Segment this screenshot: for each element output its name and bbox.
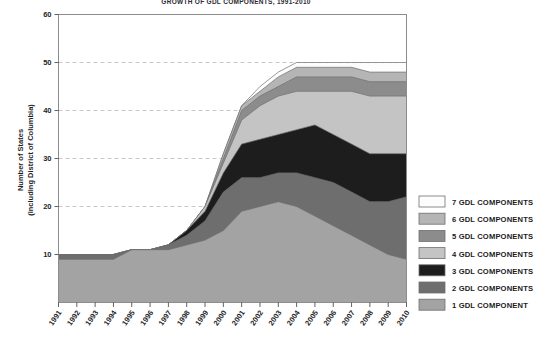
y-tick-label-40: 40 xyxy=(43,106,51,115)
legend-label-5: 5 GDL COMPONENTS xyxy=(452,232,533,241)
y-tick-label-60: 60 xyxy=(43,10,51,19)
y-axis-title-line2: (including District of Columbia) xyxy=(26,104,35,216)
legend-swatch-1[interactable] xyxy=(419,299,445,310)
y-tick-label-10: 10 xyxy=(43,250,51,259)
legend-label-6: 6 GDL COMPONENTS xyxy=(452,215,533,224)
legend-swatch-3[interactable] xyxy=(419,265,445,276)
legend-label-1: 1 GDL COMPONENT xyxy=(452,301,528,310)
legend-swatch-5[interactable] xyxy=(419,230,445,241)
legend-swatch-2[interactable] xyxy=(419,282,445,293)
legend-swatch-4[interactable] xyxy=(419,248,445,259)
legend-label-2: 2 GDL COMPONENTS xyxy=(452,284,533,293)
y-tick-label-30: 30 xyxy=(43,154,51,163)
legend-label-3: 3 GDL COMPONENTS xyxy=(452,267,533,276)
y-axis-title-line1: Number of States xyxy=(16,129,25,191)
legend-swatch-7[interactable] xyxy=(419,196,445,207)
y-tick-label-50: 50 xyxy=(43,58,51,67)
legend-label-7: 7 GDL COMPONENTS xyxy=(452,198,533,207)
legend-label-4: 4 GDL COMPONENTS xyxy=(452,250,533,259)
y-tick-label-20: 20 xyxy=(43,202,51,211)
legend-swatch-6[interactable] xyxy=(419,213,445,224)
stacked-area-chart: GROWTH OF GDL COMPONENTS, 1991-2010 1020… xyxy=(0,0,553,344)
